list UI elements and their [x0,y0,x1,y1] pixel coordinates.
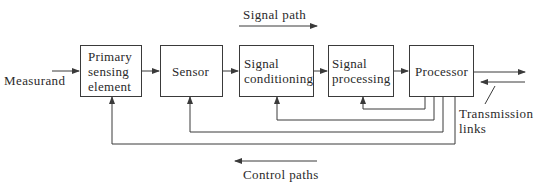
block-label: Primary [88,49,132,64]
block-label: Sensor [172,64,209,79]
block-signal-processing: Signal processing [328,45,394,97]
block-label: processing [332,71,391,86]
block-primary-sensing-element: Primary sensing element [80,45,142,97]
control-paths-label: Control paths [243,167,319,182]
transmission-links-label: Transmission links [459,106,533,136]
feedback-to-conditioning [277,96,434,120]
block-signal-conditioning: Signal conditioning [239,45,314,97]
block-label: Processor [415,64,468,79]
signal-path-label: Signal path [243,7,306,22]
feedback-to-processing [363,96,425,109]
measurand-label: Measurand [4,73,65,88]
feedback-to-sensor [190,96,443,132]
transmission-label-line1: Transmission [459,106,533,121]
block-label: conditioning [244,71,313,86]
block-processor: Processor [409,45,474,97]
block-label: Signal [332,56,391,71]
block-label: sensing [88,64,132,79]
block-label: element [88,79,132,94]
transmission-label-line2: links [459,121,533,136]
block-label: Signal [244,56,313,71]
transmission-leader-line [485,86,495,104]
block-sensor: Sensor [160,45,223,97]
